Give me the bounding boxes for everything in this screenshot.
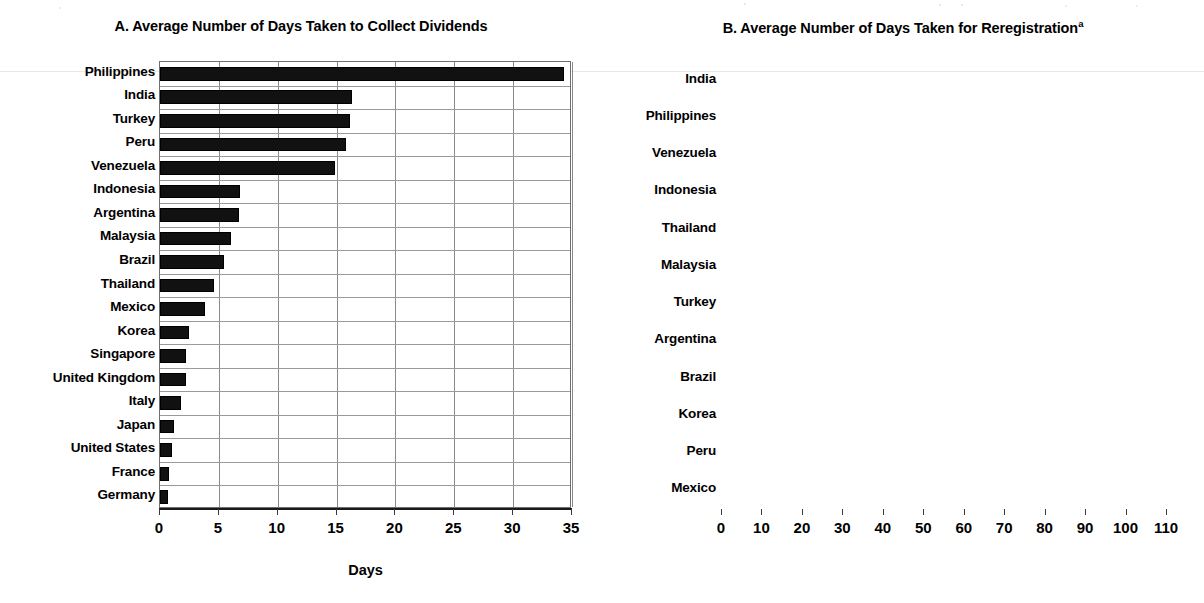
gridline-horizontal: [160, 274, 570, 275]
x-axis-tick: [923, 509, 924, 515]
gridline-horizontal: [160, 462, 570, 463]
x-axis-tick: [1085, 509, 1086, 515]
category-label: Venezuela: [91, 158, 155, 173]
category-label: Philippines: [646, 108, 716, 123]
gridline-horizontal: [160, 133, 570, 134]
x-axis-tick: [394, 509, 395, 515]
gridline-vertical: [278, 62, 279, 507]
gridline-horizontal: [160, 180, 570, 181]
panel-a-title-text: A. Average Number of Days Taken to Colle…: [115, 18, 488, 34]
gridline-vertical: [219, 62, 220, 507]
category-label: Japan: [117, 417, 155, 432]
category-label: Argentina: [93, 205, 155, 220]
x-axis-tick-label: 30: [487, 519, 537, 536]
bar: [160, 114, 350, 128]
x-axis-tick: [453, 509, 454, 515]
panel-a-x-axis-line: [159, 508, 572, 510]
bar: [160, 349, 186, 363]
gridline-vertical: [513, 62, 514, 507]
panel-a-plot-area: [159, 61, 571, 508]
bar: [160, 373, 186, 387]
category-label: United States: [71, 440, 155, 455]
x-axis-tick: [761, 509, 762, 515]
category-label: Malaysia: [661, 257, 716, 272]
x-axis-tick-label: 15: [311, 519, 361, 536]
gridline-horizontal: [160, 415, 570, 416]
category-label: Turkey: [674, 294, 716, 309]
category-label: India: [685, 71, 716, 86]
category-label: Singapore: [90, 346, 155, 361]
bar: [160, 138, 346, 152]
x-axis-tick-label: 25: [428, 519, 478, 536]
bar: [160, 326, 189, 340]
category-label: Venezuela: [652, 145, 716, 160]
gridline-horizontal: [160, 227, 570, 228]
panel-b-title-footnote-marker: a: [1078, 18, 1083, 29]
gridline-horizontal: [160, 485, 570, 486]
gridline-vertical: [454, 62, 455, 507]
category-label: Argentina: [654, 331, 716, 346]
category-label: United Kingdom: [53, 370, 155, 385]
x-axis-tick: [1004, 509, 1005, 515]
category-label: Thailand: [662, 220, 716, 235]
x-axis-tick: [159, 509, 160, 515]
x-axis-tick: [964, 509, 965, 515]
category-label: Peru: [687, 443, 716, 458]
category-label: Indonesia: [93, 181, 155, 196]
category-label: Italy: [129, 393, 155, 408]
gridline-horizontal: [160, 109, 570, 110]
x-axis-tick-label: 35: [546, 519, 596, 536]
bar: [160, 420, 174, 434]
gridline-horizontal: [160, 344, 570, 345]
category-label: Mexico: [671, 480, 716, 495]
x-axis-tick: [802, 509, 803, 515]
bar: [160, 279, 214, 293]
bar: [160, 490, 168, 504]
category-label: Brazil: [680, 369, 716, 384]
x-axis-tick-label: 5: [193, 519, 243, 536]
x-axis-tick: [883, 509, 884, 515]
gridline-horizontal: [160, 321, 570, 322]
category-label: France: [112, 464, 155, 479]
figure-page: A. Average Number of Days Taken to Colle…: [0, 0, 1204, 603]
bar: [160, 185, 240, 199]
gridline-vertical: [337, 62, 338, 507]
category-label: Thailand: [101, 276, 155, 291]
bar: [160, 67, 564, 81]
x-axis-tick: [277, 509, 278, 515]
bar: [160, 255, 224, 269]
gridline-horizontal: [160, 250, 570, 251]
panel-a-title: A. Average Number of Days Taken to Colle…: [0, 18, 602, 34]
x-axis-tick: [1045, 509, 1046, 515]
x-axis-tick: [218, 509, 219, 515]
category-label: Philippines: [85, 64, 155, 79]
bar: [160, 302, 205, 316]
gridline-horizontal: [160, 86, 570, 87]
category-label: Korea: [678, 406, 716, 421]
category-label: Malaysia: [100, 228, 155, 243]
gridline-horizontal: [160, 391, 570, 392]
panel-a-x-axis-title: Days: [159, 562, 572, 578]
x-axis-tick: [721, 509, 722, 515]
gridline-vertical: [395, 62, 396, 507]
bar: [160, 443, 172, 457]
x-axis-tick-label: 0: [134, 519, 184, 536]
x-axis-tick: [336, 509, 337, 515]
category-label: Korea: [117, 323, 155, 338]
x-axis-tick: [842, 509, 843, 515]
x-axis-tick-label: 10: [252, 519, 302, 536]
category-label: Brazil: [119, 252, 155, 267]
category-label: Peru: [126, 134, 155, 149]
bar: [160, 90, 352, 104]
bar: [160, 208, 239, 222]
bar: [160, 161, 335, 175]
bar: [160, 467, 169, 481]
gridline-horizontal: [160, 438, 570, 439]
bar: [160, 232, 231, 246]
category-label: Mexico: [110, 299, 155, 314]
x-axis-tick: [1126, 509, 1127, 515]
category-label: Germany: [98, 487, 155, 502]
category-label: Turkey: [113, 111, 155, 126]
x-axis-tick: [1166, 509, 1167, 515]
category-label: Indonesia: [654, 182, 716, 197]
